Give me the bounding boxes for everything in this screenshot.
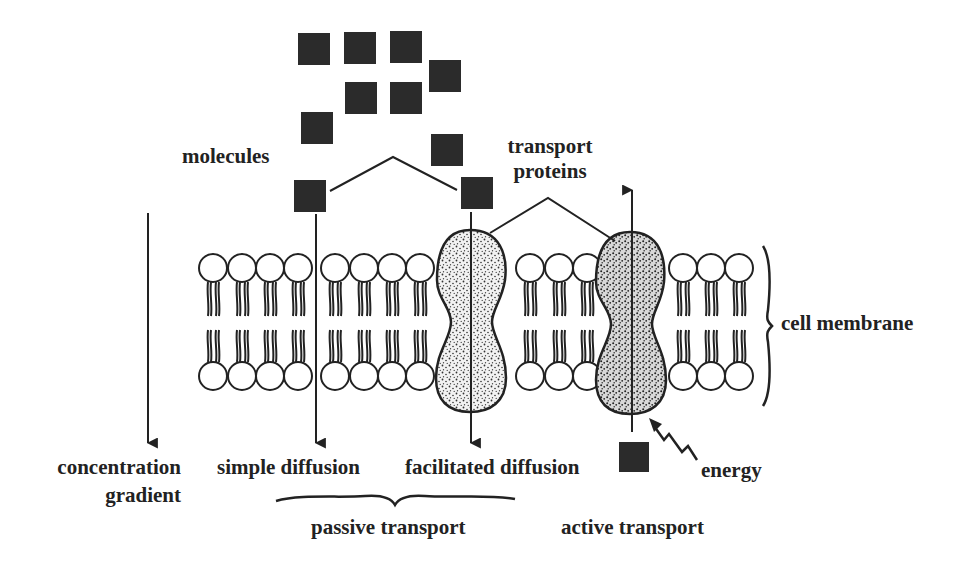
molecule-square-icon [294, 180, 326, 212]
phospholipid [669, 254, 697, 390]
molecule-square-icon [619, 442, 649, 472]
molecule-square-icon [461, 177, 493, 209]
phospholipid [545, 254, 573, 390]
concentration-gradient-label-line2: gradient [105, 483, 181, 507]
molecule-square-icon [429, 60, 461, 92]
concentration-gradient-label-line1: concentration [57, 455, 181, 479]
molecule-square-icon [390, 31, 422, 63]
molecule-square-icon [298, 33, 330, 65]
phospholipid [228, 254, 256, 390]
molecule-square-icon [345, 82, 377, 114]
transport-proteins-pointer-line [490, 198, 615, 241]
phospholipid [406, 254, 434, 390]
transport-proteins-label-line2: proteins [513, 159, 586, 183]
phospholipid [284, 254, 312, 390]
facilitated-diffusion-label: facilitated diffusion [405, 455, 580, 479]
phospholipid [256, 254, 284, 390]
membrane-transport-diagram: molecules transport proteins cell membra… [0, 0, 966, 569]
molecule-square-icon [431, 134, 463, 166]
phospholipid [350, 254, 378, 390]
phospholipid [697, 254, 725, 390]
phospholipid [321, 254, 349, 390]
phospholipid [516, 254, 544, 390]
cell-membrane-label: cell membrane [781, 311, 913, 335]
simple-diffusion-label: simple diffusion [217, 455, 360, 479]
passive-transport-label: passive transport [311, 515, 466, 539]
molecule-square-icon [344, 32, 376, 64]
molecule-square-icon [390, 82, 422, 114]
phospholipid [199, 254, 227, 390]
energy-bolt-icon [649, 418, 697, 460]
cell-membrane-brace [763, 246, 772, 406]
molecule-square-icon [301, 112, 333, 144]
molecules-label: molecules [182, 144, 269, 168]
passive-transport-brace [276, 496, 515, 505]
transport-proteins-label-line1: transport [507, 134, 592, 158]
active-transport-label: active transport [561, 515, 704, 539]
phospholipid [725, 254, 753, 390]
energy-label: energy [701, 458, 762, 482]
phospholipid [378, 254, 406, 390]
